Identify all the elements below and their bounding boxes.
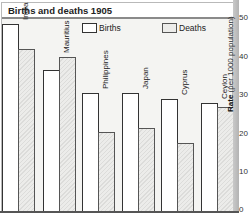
category-label-cyprus: Cyprus bbox=[180, 70, 189, 95]
bar-deaths-cyprus bbox=[177, 143, 194, 211]
legend-swatch-births bbox=[82, 23, 97, 33]
y-tick-50: 50 bbox=[239, 13, 251, 22]
y-axis-label-rest: (per 1000 population) bbox=[226, 16, 235, 94]
bar-deaths-mauritius bbox=[59, 57, 76, 211]
title-bar: Births and deaths 1905 bbox=[2, 3, 233, 19]
bar-births-philippines bbox=[82, 93, 99, 211]
bar-deaths-ceylon bbox=[217, 107, 234, 211]
bar-deaths-japan bbox=[138, 128, 155, 211]
plot-area bbox=[1, 2, 233, 213]
bar-births-cyprus bbox=[161, 99, 178, 211]
bar-deaths-philippines bbox=[98, 132, 115, 211]
bar-births-japan bbox=[122, 93, 139, 211]
y-tick-40: 40 bbox=[239, 52, 251, 61]
legend-label-births: Births bbox=[99, 23, 121, 33]
y-tick-20: 20 bbox=[239, 129, 251, 138]
y-axis-label: Rate (per 1000 population) bbox=[226, 16, 235, 112]
x-axis-line bbox=[0, 211, 239, 213]
y-tick-30: 30 bbox=[239, 90, 251, 99]
chart-frame: Births and deaths 1905 Births Deaths Ind… bbox=[0, 0, 251, 215]
bar-births-india bbox=[2, 24, 19, 211]
bar-births-ceylon bbox=[201, 103, 218, 211]
legend-swatch-deaths bbox=[162, 23, 177, 33]
y-tick-10: 10 bbox=[239, 167, 251, 176]
bar-births-mauritius bbox=[43, 70, 60, 211]
bar-deaths-india bbox=[18, 49, 35, 211]
category-label-india: India bbox=[21, 3, 30, 20]
category-label-philippines: Philippines bbox=[101, 50, 110, 89]
legend-label-deaths: Deaths bbox=[179, 23, 206, 33]
category-label-mauritius: Mauritius bbox=[62, 21, 71, 53]
y-axis-label-bold: Rate bbox=[226, 95, 235, 112]
category-label-japan: Japan bbox=[141, 67, 150, 89]
y-tick-0: 0 bbox=[239, 205, 251, 214]
